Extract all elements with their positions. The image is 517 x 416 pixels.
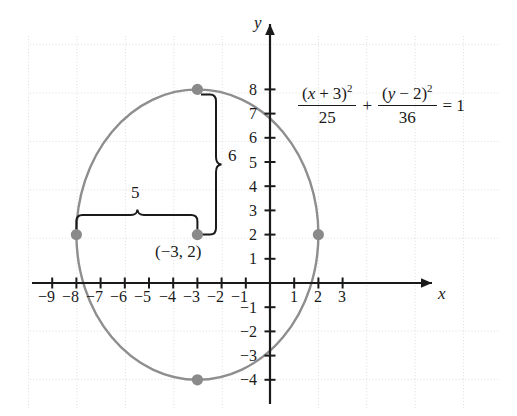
x-tick-label--2: −2	[207, 289, 224, 305]
center-point-label: (−3, 2)	[155, 243, 201, 260]
y-tick-label-5: 5	[249, 155, 257, 171]
marker-top-vertex	[192, 84, 203, 95]
fraction-2-numerator: (y−2)2	[378, 84, 436, 106]
x-axis-arrow	[421, 278, 432, 288]
ellipse-equation: (x+3)2 25 + (y−2)2 36 = 1	[296, 84, 465, 128]
fraction-1-denominator: 25	[315, 106, 340, 128]
y-tick-label-2: 2	[249, 227, 257, 243]
x-tick-label-2: 2	[314, 289, 322, 305]
horizontal-brace	[76, 210, 197, 232]
x-tick-label--4: −4	[159, 289, 176, 305]
y-tick-label-8: 8	[249, 82, 257, 98]
marker-bottom-vertex	[192, 374, 203, 385]
brace-label-6: 6	[228, 147, 237, 164]
fraction-1-numerator: (x+3)2	[298, 84, 356, 106]
x-tick-label--7: −7	[86, 289, 103, 305]
exponent-1: 2	[347, 82, 353, 94]
y-tick-label-1: 1	[249, 251, 257, 267]
operator-plus-inner: +	[319, 84, 329, 103]
x-tick-label--3: −3	[183, 289, 200, 305]
y-tick-label-3: 3	[249, 203, 257, 219]
y-axis-arrow	[265, 24, 275, 35]
brace-label-5: 5	[131, 184, 140, 201]
vertex-markers	[71, 84, 324, 386]
plot-canvas	[0, 0, 517, 416]
y-tick-label-7: 7	[249, 106, 257, 122]
x-tick-label--9: −9	[38, 289, 55, 305]
equation-rhs: 1	[456, 96, 465, 116]
x-tick-label--6: −6	[110, 289, 127, 305]
marker-left-vertex	[71, 229, 82, 240]
y-tick-label--4: −4	[240, 372, 257, 388]
x-tick-label--5: −5	[134, 289, 151, 305]
fraction-2-denominator: 36	[395, 106, 420, 128]
ellipse-graph-figure: −9 −8 −7 −6 −5 −4 −3 −2 −1 1 2 3 8 7 6 5…	[0, 0, 517, 416]
operator-plus: +	[362, 96, 372, 116]
y-tick-label--3: −3	[240, 348, 257, 364]
y-tick-label-6: 6	[249, 130, 257, 146]
variable-x: x	[308, 84, 316, 103]
x-tick-label--8: −8	[62, 289, 79, 305]
marker-center	[192, 229, 203, 240]
x-axis-label: x	[438, 285, 446, 302]
exponent-2: 2	[427, 82, 433, 94]
marker-right-vertex	[313, 229, 324, 240]
equals-sign: =	[443, 96, 453, 116]
variable-y: y	[388, 84, 396, 103]
vertical-brace	[201, 94, 222, 234]
y-tick-label--1: −1	[240, 300, 257, 316]
x-tick-label-1: 1	[290, 289, 298, 305]
y-tick-label-4: 4	[249, 179, 257, 195]
x-tick-label-3: 3	[338, 289, 346, 305]
y-axis-label: y	[254, 14, 262, 31]
equation-fraction-2: (y−2)2 36	[378, 84, 436, 128]
operator-minus-inner: −	[399, 84, 409, 103]
y-tick-label--2: −2	[240, 324, 257, 340]
equation-fraction-1: (x+3)2 25	[298, 84, 356, 128]
